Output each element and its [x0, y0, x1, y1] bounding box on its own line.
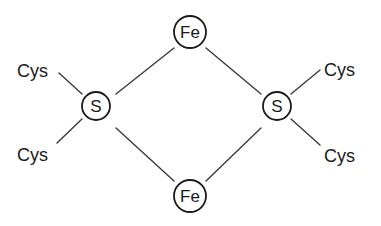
bond-cys-top-left-s-left — [59, 73, 82, 94]
ligand-label-cys-bottom-right: Cys — [324, 146, 355, 166]
ligand-label-cys-top-right: Cys — [324, 60, 355, 80]
ligand-label-cys-bottom-left: Cys — [17, 145, 48, 165]
atom-label-fe-top: Fe — [180, 23, 200, 42]
bond-s-right-fe-bottom — [206, 128, 261, 181]
bond-cys-bottom-left-s-left — [57, 119, 82, 143]
bond-s-right-fe-top — [206, 48, 261, 94]
atom-fe-bottom: Fe — [174, 180, 206, 212]
atom-s-right: S — [263, 92, 291, 120]
bond-s-left-fe-bottom — [116, 128, 174, 181]
ligand-label-cys-top-left: Cys — [17, 61, 48, 81]
atom-label-s-right: S — [271, 97, 282, 116]
bond-s-left-fe-top — [116, 48, 174, 94]
atom-fe-top: Fe — [174, 16, 206, 48]
fe2s2-cluster-diagram: Fe S S Fe Cys Cys Cys Cys — [0, 0, 381, 226]
atom-s-left: S — [82, 92, 110, 120]
bond-cys-top-right-s-right — [291, 70, 320, 94]
bond-cys-bottom-right-s-right — [291, 119, 320, 145]
atom-label-fe-bottom: Fe — [180, 187, 200, 206]
atom-label-s-left: S — [90, 97, 101, 116]
